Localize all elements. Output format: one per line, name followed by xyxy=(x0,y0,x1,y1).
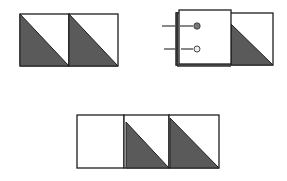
pin-head-icon xyxy=(194,23,200,29)
hst-unit-1 xyxy=(20,14,69,66)
hst-unit-3 xyxy=(124,115,169,168)
hst-unit-2 xyxy=(69,14,118,66)
panel-row-assembled xyxy=(77,115,219,168)
pin-head-icon xyxy=(194,46,200,52)
plain-square xyxy=(77,115,124,168)
panel-square-pinned-on-hst xyxy=(162,10,273,66)
panel-two-hst-units xyxy=(20,14,118,66)
quilt-diagram xyxy=(0,0,287,181)
hst-unit-4 xyxy=(169,115,219,168)
plain-square-front xyxy=(177,10,231,66)
